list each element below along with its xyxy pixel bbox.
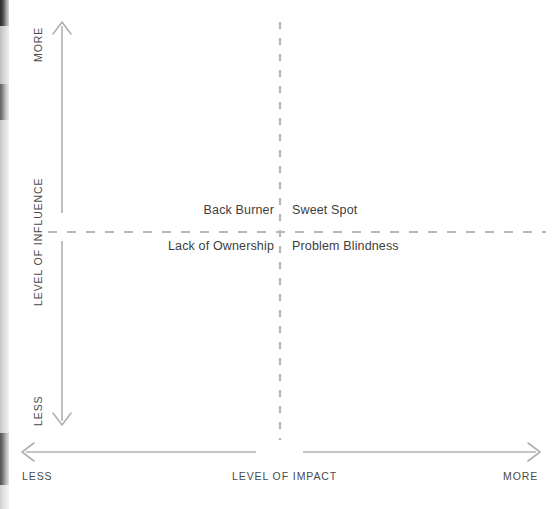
x-axis-title: LEVEL OF IMPACT xyxy=(232,470,337,482)
x-axis-high-label: MORE xyxy=(503,470,538,482)
quadrant-label-top-left: Back Burner xyxy=(204,203,274,217)
y-axis-low-label: LESS xyxy=(32,396,44,426)
matrix-diagram: MORE LEVEL OF INFLUENCE LESS LESS LEVEL … xyxy=(0,0,559,509)
y-axis-high-label: MORE xyxy=(32,27,44,62)
x-axis-low-label: LESS xyxy=(22,470,52,482)
quadrant-label-top-right: Sweet Spot xyxy=(292,203,357,217)
quadrant-label-bottom-right: Problem Blindness xyxy=(292,239,399,253)
quadrant-dividers xyxy=(0,0,559,509)
y-axis-title: LEVEL OF INFLUENCE xyxy=(32,178,44,306)
quadrant-label-bottom-left: Lack of Ownership xyxy=(168,239,274,253)
